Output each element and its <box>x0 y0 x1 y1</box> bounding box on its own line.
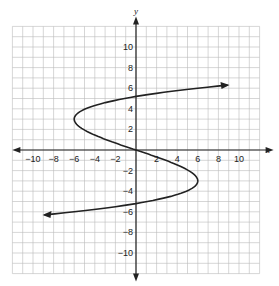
svg-text:−2: −2 <box>110 154 120 164</box>
svg-text:−4: −4 <box>90 154 100 164</box>
svg-text:8: 8 <box>128 63 133 73</box>
svg-text:−2: −2 <box>123 166 133 176</box>
svg-text:−8: −8 <box>123 227 133 237</box>
svg-text:−6: −6 <box>123 207 133 217</box>
x-axis-label: x <box>265 145 270 155</box>
svg-text:2: 2 <box>154 154 159 164</box>
svg-text:−8: −8 <box>48 154 58 164</box>
y-axis-label: y <box>133 6 138 16</box>
svg-text:6: 6 <box>195 154 200 164</box>
svg-text:4: 4 <box>128 104 133 114</box>
svg-text:−6: −6 <box>69 154 79 164</box>
svg-text:2: 2 <box>128 124 133 134</box>
svg-text:10: 10 <box>123 42 133 52</box>
svg-text:4: 4 <box>175 154 180 164</box>
svg-text:−10: −10 <box>118 248 133 258</box>
svg-text:−4: −4 <box>123 186 133 196</box>
svg-text:10: 10 <box>234 154 244 164</box>
grid <box>12 16 273 281</box>
svg-text:6: 6 <box>128 83 133 93</box>
svg-text:8: 8 <box>216 154 221 164</box>
graph: −10−8−6−4−2246810108642−2−4−6−8−10 y x <box>0 0 279 286</box>
svg-text:−10: −10 <box>25 154 40 164</box>
